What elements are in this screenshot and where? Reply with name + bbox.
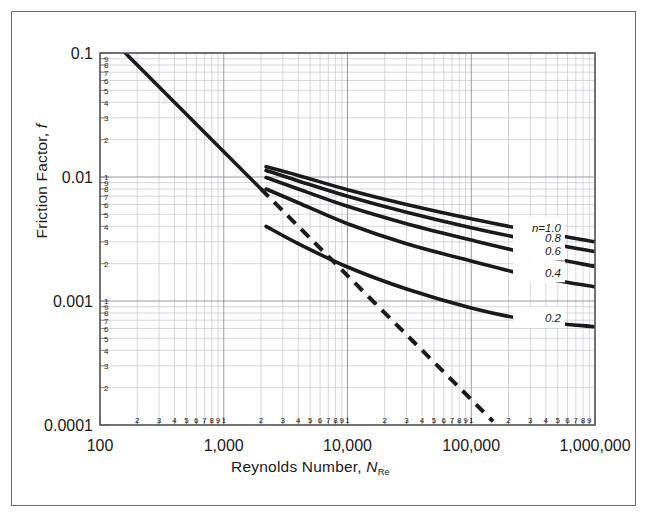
x-decade-tick-label: 1	[345, 416, 350, 425]
y-major-tick-label: 0.001	[53, 293, 93, 310]
x-minor-tick-label: 6	[318, 416, 323, 425]
y-minor-tick-label: 3	[104, 238, 109, 247]
x-axis-title-symbol: N	[366, 458, 377, 475]
y-minor-tick-label: 3	[104, 362, 109, 371]
x-minor-tick-label: 9	[587, 416, 592, 425]
y-minor-tick-label: 4	[104, 223, 109, 232]
x-minor-tick-label: 5	[308, 416, 313, 425]
x-minor-tick-label: 6	[194, 416, 199, 425]
y-minor-tick-label: 3	[104, 114, 109, 123]
x-major-tick-label: 100	[87, 437, 114, 454]
y-axis-title-symbol: f	[33, 124, 50, 129]
y-minor-tick-label: 2	[104, 260, 109, 269]
y-minor-tick-label: 5	[104, 335, 109, 344]
chart-figure-frame: 0.10.010.0010.00012345678923456789123456…	[11, 11, 636, 506]
x-minor-tick-label: 4	[420, 416, 425, 425]
x-minor-tick-label: 4	[544, 416, 549, 425]
x-major-tick-label: 1,000	[204, 437, 244, 454]
y-minor-tick-label: 2	[104, 384, 109, 393]
y-minor-tick-label: 4	[104, 99, 109, 108]
y-minor-tick-label: 5	[104, 211, 109, 220]
x-minor-tick-label: 8	[333, 416, 338, 425]
x-minor-tick-label: 7	[202, 416, 207, 425]
x-minor-tick-label: 3	[281, 416, 286, 425]
y-minor-tick-label: 6	[104, 325, 109, 334]
y-decade-tick-label: 1	[104, 173, 109, 182]
x-minor-tick-label: 2	[135, 416, 140, 425]
x-decade-tick-label: 1	[222, 416, 227, 425]
series-label-n=0.2: 0.2	[545, 312, 562, 324]
x-minor-tick-label: 9	[216, 416, 221, 425]
x-minor-tick-label: 8	[581, 416, 586, 425]
x-minor-tick-label: 7	[326, 416, 331, 425]
series-label-n=0.4: 0.4	[545, 267, 561, 279]
x-minor-tick-label: 3	[528, 416, 533, 425]
x-minor-tick-label: 4	[296, 416, 301, 425]
x-minor-tick-label: 8	[457, 416, 462, 425]
x-minor-tick-label: 4	[172, 416, 177, 425]
x-minor-tick-label: 2	[259, 416, 264, 425]
y-minor-tick-label: 4	[104, 347, 109, 356]
x-minor-tick-label: 3	[404, 416, 409, 425]
x-major-tick-label: 10,000	[323, 437, 372, 454]
y-minor-tick-label: 9	[104, 55, 109, 64]
friction-factor-chart: 0.10.010.0010.00012345678923456789123456…	[12, 12, 648, 518]
x-minor-tick-label: 8	[210, 416, 215, 425]
y-major-tick-label: 0.1	[71, 45, 93, 62]
x-major-tick-label: 100,000	[442, 437, 500, 454]
series-label-n=0.8: 0.8	[545, 232, 562, 244]
y-minor-tick-label: 5	[104, 87, 109, 96]
y-minor-tick-label: 6	[104, 77, 109, 86]
x-minor-tick-label: 6	[442, 416, 447, 425]
x-axis-title-text: Reynolds Number,	[231, 458, 366, 475]
curve-laminar	[122, 50, 261, 190]
x-minor-tick-label: 5	[556, 416, 561, 425]
x-axis-title-subscript: Re	[378, 466, 390, 477]
x-minor-tick-label: 2	[383, 416, 388, 425]
y-major-tick-label: 0.01	[62, 169, 93, 186]
y-minor-tick-label: 2	[104, 136, 109, 145]
x-minor-tick-label: 7	[450, 416, 455, 425]
x-minor-tick-label: 9	[340, 416, 345, 425]
y-axis-title: Friction Factor, f	[33, 76, 51, 286]
x-axis-title: Reynolds Number, NRe	[12, 458, 637, 476]
x-minor-tick-label: 5	[184, 416, 189, 425]
x-minor-tick-label: 2	[506, 416, 511, 425]
y-major-tick-label: 0.0001	[44, 417, 93, 434]
x-decade-tick-label: 1	[469, 416, 474, 425]
x-minor-tick-label: 6	[565, 416, 570, 425]
series-label-n=0.6: 0.6	[545, 245, 562, 257]
x-minor-tick-label: 9	[463, 416, 468, 425]
x-major-tick-label: 1,000,000	[559, 437, 630, 454]
y-axis-title-text: Friction Factor,	[33, 128, 50, 238]
y-minor-tick-label: 6	[104, 201, 109, 210]
x-minor-tick-label: 3	[157, 416, 162, 425]
x-minor-tick-label: 7	[574, 416, 579, 425]
y-decade-tick-label: 1	[104, 297, 109, 306]
x-minor-tick-label: 5	[432, 416, 437, 425]
